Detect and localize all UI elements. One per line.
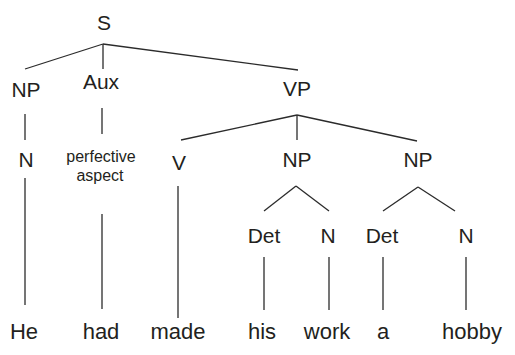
edge-np1-det [264,186,296,211]
node-n1: N [320,224,335,247]
word-work: work [303,319,351,344]
node-aux-value-line2: aspect [76,167,124,184]
edge-s-vp [103,44,298,70]
edge-np1-n [296,186,329,211]
word-made: made [150,319,205,344]
edge-np2-n [418,187,455,211]
tree-svg: S NP Aux VP N perfective aspect V NP NP … [0,0,515,355]
word-he: He [10,319,38,344]
node-aux: Aux [83,70,120,93]
edge-vp-np2 [297,115,417,141]
node-s: S [97,11,111,34]
word-a: a [377,319,390,344]
node-np-subject: NP [11,78,40,101]
word-his: his [248,319,276,344]
word-hobby: hobby [442,319,502,344]
node-det1: Det [248,224,281,247]
edge-s-np [25,44,103,69]
node-v: V [172,151,186,174]
node-np-object2: NP [403,148,432,171]
node-aux-value-line1: perfective [66,148,135,165]
node-n-subject: N [18,148,33,171]
node-np-object1: NP [282,148,311,171]
node-vp: VP [283,77,311,100]
word-had: had [83,319,120,344]
node-n2: N [458,224,473,247]
edge-np2-det [383,187,418,211]
node-det2: Det [366,224,399,247]
edge-vp-v [181,115,297,140]
syntax-tree-diagram: S NP Aux VP N perfective aspect V NP NP … [0,0,515,355]
